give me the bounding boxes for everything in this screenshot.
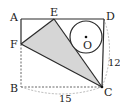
label-f: F bbox=[10, 38, 18, 51]
label-c: C bbox=[104, 86, 112, 99]
geometry-diagram: A E D F O B C 12 15 bbox=[0, 0, 120, 109]
segment-dc bbox=[102, 19, 104, 87]
label-a: A bbox=[9, 11, 19, 24]
measure-bc: 15 bbox=[59, 93, 72, 104]
label-e: E bbox=[50, 6, 58, 19]
measure-cd: 12 bbox=[108, 57, 120, 68]
label-d: D bbox=[106, 10, 115, 23]
center-point-o bbox=[85, 36, 88, 39]
point-c-dot bbox=[101, 86, 104, 89]
label-o: O bbox=[83, 39, 92, 52]
label-b: B bbox=[10, 82, 18, 95]
